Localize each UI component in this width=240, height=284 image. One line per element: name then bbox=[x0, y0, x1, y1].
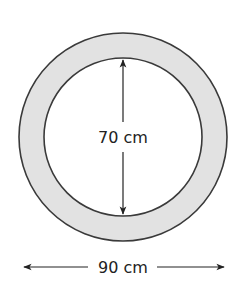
annulus-diagram: 70 cm 90 cm bbox=[0, 0, 240, 284]
outer-diameter-label: 90 cm bbox=[98, 258, 148, 277]
inner-diameter-label: 70 cm bbox=[98, 128, 148, 147]
